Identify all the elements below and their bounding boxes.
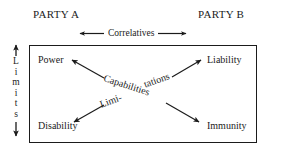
limits-letter-2: i: [9, 67, 23, 78]
correlatives-axis-label: Correlatives: [108, 28, 154, 38]
term-disability: Disability: [38, 120, 77, 131]
limits-letter-4: i: [9, 88, 23, 99]
term-immunity: Immunity: [207, 120, 246, 131]
term-power: Power: [38, 54, 64, 65]
limits-axis-label: L i m i t s: [9, 56, 23, 119]
party-b-label: PARTY B: [198, 8, 244, 20]
term-liability: Liability: [207, 54, 241, 65]
diagram-canvas: PARTY A PARTY B Correlatives L i m i t s…: [0, 0, 282, 156]
party-a-label: PARTY A: [33, 8, 79, 20]
limits-letter-1: L: [9, 56, 23, 67]
limits-letter-6: s: [9, 109, 23, 120]
limits-letter-5: t: [9, 98, 23, 109]
limits-letter-3: m: [9, 77, 23, 88]
